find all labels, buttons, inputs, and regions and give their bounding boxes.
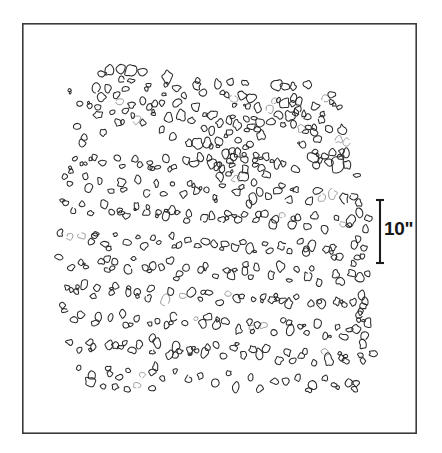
pebble-fabric-figure: 10": [0, 0, 442, 453]
map-frame-border: [23, 24, 416, 433]
figure-canvas: [0, 0, 442, 453]
scale-bar-label: 10": [384, 219, 413, 238]
